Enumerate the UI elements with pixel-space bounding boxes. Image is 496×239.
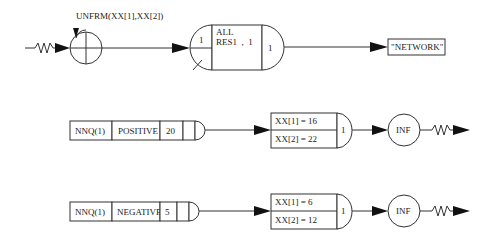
assign-node-positive[interactable]: XX[1] = 16 XX[2] = 22 1 xyxy=(271,113,352,148)
queue-node-negative[interactable]: NNQ(1) NEGATIVE 5 xyxy=(70,202,199,221)
zigzag-arrival-icon xyxy=(25,43,58,53)
assign-value: 1 xyxy=(341,125,346,135)
network-diagram: UNFRM(XX[1],XX[2]) 1 ALL RES1 , 1 1 "NET… xyxy=(0,0,496,239)
resource-line2: RES1 , 1 xyxy=(216,37,253,47)
queue-name: NNQ(1) xyxy=(75,126,105,136)
network-output-box[interactable]: "NETWORK" xyxy=(388,39,445,55)
arrow-icon xyxy=(254,206,271,216)
assign-node-negative[interactable]: XX[1] = 6 XX[2] = 12 1 xyxy=(271,194,352,229)
resource-right-value: 1 xyxy=(268,43,273,53)
zigzag-departure-icon xyxy=(420,206,456,216)
queue-capacity: 20 xyxy=(166,126,176,136)
zigzag-departure-icon xyxy=(420,125,456,135)
arrow-icon xyxy=(55,43,70,53)
server-node-positive[interactable]: INF xyxy=(388,114,420,146)
resource-left-value: 1 xyxy=(199,35,204,45)
assign-line2: XX[2] = 12 xyxy=(275,215,317,225)
queue-name: NNQ(1) xyxy=(75,207,105,217)
arrow-icon xyxy=(254,125,271,135)
queue-type: POSITIVE xyxy=(118,126,159,136)
queue-type: NEGATIVE xyxy=(117,207,162,217)
server-label: INF xyxy=(396,206,411,216)
assign-value: 1 xyxy=(341,206,346,216)
assign-line1: XX[1] = 16 xyxy=(275,116,318,126)
server-node-negative[interactable]: INF xyxy=(388,195,420,227)
arrow-icon xyxy=(453,206,470,216)
assign-line1: XX[1] = 6 xyxy=(275,197,313,207)
queue-capacity: 5 xyxy=(165,207,170,217)
queue-node-positive[interactable]: NNQ(1) POSITIVE 20 xyxy=(70,121,205,140)
arrow-icon xyxy=(372,206,388,216)
arrow-icon xyxy=(372,125,388,135)
row-1-source: UNFRM(XX[1],XX[2]) xyxy=(25,11,163,64)
resource-node[interactable]: 1 ALL RES1 , 1 1 xyxy=(190,25,284,70)
assign-line2: XX[2] = 22 xyxy=(275,134,317,144)
source-label: UNFRM(XX[1],XX[2]) xyxy=(76,11,163,21)
server-label: INF xyxy=(396,125,411,135)
arrow-icon xyxy=(370,42,388,52)
arrow-icon xyxy=(172,43,190,53)
arrow-icon xyxy=(453,125,470,135)
resource-line1: ALL xyxy=(216,27,234,37)
network-label: "NETWORK" xyxy=(391,42,444,52)
